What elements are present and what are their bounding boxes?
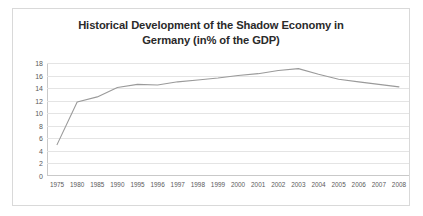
x-axis-tick-label: 1995 — [130, 181, 144, 188]
series-line-chart — [47, 63, 409, 176]
x-axis-tick-label: 1985 — [90, 181, 104, 188]
x-axis-tick-label: 1990 — [110, 181, 124, 188]
y-axis-tick-label: 18 — [35, 60, 43, 67]
y-axis-tick-label: 12 — [35, 97, 43, 104]
x-axis-tick-label: 2005 — [332, 181, 346, 188]
x-axis-tick-label: 1998 — [191, 181, 205, 188]
y-axis-tick-label: 4 — [39, 147, 43, 154]
x-axis-tick-label: 1997 — [171, 181, 185, 188]
y-axis-tick-label: 6 — [39, 135, 43, 142]
x-axis-ticks: 1975198019851990199519961997199819992000… — [47, 181, 409, 195]
y-axis-tick-label: 14 — [35, 85, 43, 92]
x-axis-tick-label: 1996 — [151, 181, 165, 188]
y-axis-tick-label: 16 — [35, 72, 43, 79]
y-axis-tick-label: 0 — [39, 173, 43, 180]
chart-card: Historical Development of the Shadow Eco… — [12, 8, 410, 206]
x-axis-tick-label: 2001 — [251, 181, 265, 188]
y-axis-tick-label: 8 — [39, 122, 43, 129]
x-axis-tick-label: 1999 — [211, 181, 225, 188]
x-axis-tick-label: 2000 — [231, 181, 245, 188]
x-axis-tick-label: 2002 — [271, 181, 285, 188]
x-axis-tick-label: 2007 — [372, 181, 386, 188]
x-axis-tick-label: 2004 — [311, 181, 325, 188]
plot-wrapper: 024681012141618 197519801985199019951996… — [13, 9, 409, 205]
y-axis-tick-label: 10 — [35, 110, 43, 117]
x-axis-tick-label: 2006 — [352, 181, 366, 188]
plot-area: 024681012141618 — [47, 63, 409, 176]
x-axis-tick-label: 2003 — [291, 181, 305, 188]
x-axis-tick-label: 1980 — [70, 181, 84, 188]
x-axis-tick-label: 1975 — [50, 181, 64, 188]
series-polyline — [57, 69, 399, 145]
x-axis-tick-label: 2008 — [392, 181, 406, 188]
y-axis-tick-label: 2 — [39, 160, 43, 167]
